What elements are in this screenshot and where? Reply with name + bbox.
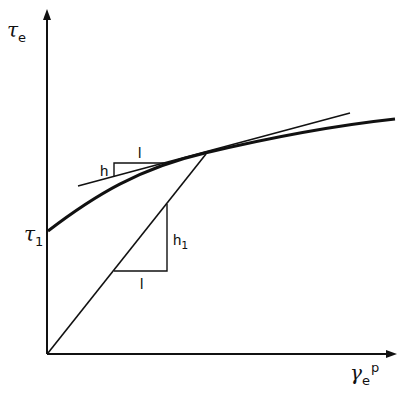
- x-axis: [47, 350, 397, 358]
- y-axis-arrow-icon: [43, 9, 51, 20]
- y-intercept-subscript: 1: [35, 234, 43, 249]
- x-axis-symbol: γ: [350, 361, 362, 385]
- secant-rise-subscript: 1: [181, 239, 188, 252]
- y-intercept-label: τ1: [24, 224, 43, 244]
- tangent-rise-label: h: [100, 163, 108, 178]
- secant-run-label: l: [140, 276, 143, 291]
- x-axis-arrow-icon: [386, 350, 397, 358]
- diagram-canvas: [0, 0, 403, 393]
- hardening-diagram: τe γep τ1 h l h1 l: [0, 0, 403, 393]
- y-axis-label: τe: [7, 20, 26, 40]
- x-axis-superscript: p: [371, 360, 379, 375]
- tangent-run-label: l: [138, 145, 141, 160]
- y-axis-symbol: τ: [7, 18, 18, 42]
- x-axis-label: γep: [350, 363, 378, 383]
- y-axis-subscript: e: [18, 30, 26, 45]
- x-axis-subscript: e: [362, 373, 370, 388]
- secant-line: [48, 154, 206, 353]
- y-intercept-symbol: τ: [24, 222, 35, 246]
- tangent-line: [78, 113, 350, 186]
- secant-rise-label: h1: [173, 232, 188, 248]
- y-axis: [43, 9, 51, 354]
